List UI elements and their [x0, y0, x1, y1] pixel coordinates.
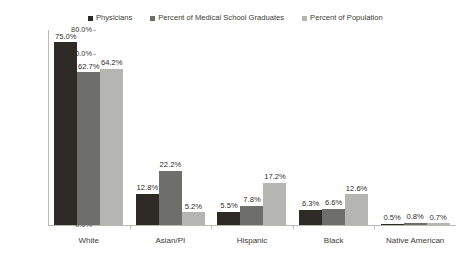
bar-column: 0.7% [427, 30, 450, 225]
bar-column: 5.2% [182, 30, 205, 225]
legend-swatch-icon [88, 16, 93, 21]
bar-group: 6.3%6.6%12.6%Black [293, 30, 375, 225]
bar-group-bars: 12.8%22.2%5.2% [130, 30, 212, 225]
x-axis-category-label: Asian/PI [130, 236, 212, 245]
x-axis-line [48, 225, 456, 226]
x-axis-group-separator [211, 225, 212, 229]
bar-value-label: 7.8% [243, 196, 260, 204]
chart-legend: PhysiciansPercent of Medical School Grad… [88, 11, 458, 25]
bar-value-label: 6.6% [325, 199, 342, 207]
y-axis-tick-mark [93, 225, 96, 226]
bar-group-bars: 5.5%7.8%17.2% [211, 30, 293, 225]
legend-label: Physicians [96, 14, 132, 22]
bar[interactable] [54, 42, 77, 225]
bar-group: 5.5%7.8%17.2%Hispanic [211, 30, 293, 225]
bar[interactable] [136, 194, 159, 225]
bar[interactable] [159, 171, 182, 225]
legend-entry-1[interactable]: Percent of Medical School Graduates [150, 14, 284, 22]
legend-entry-0[interactable]: Physicians [88, 14, 132, 22]
bar[interactable] [217, 212, 240, 225]
bar-chart: PhysiciansPercent of Medical School Grad… [0, 0, 462, 263]
bar-column: 62.7% [77, 30, 100, 225]
plot-area: 80.0%70.0%60.0%50.0%40.0%30.0%20.0%10.0%… [48, 30, 456, 225]
bar-column: 0.5% [381, 30, 404, 225]
bar-column: 7.8% [240, 30, 263, 225]
bar-value-label: 0.8% [407, 213, 424, 221]
bar-column: 5.5% [217, 30, 240, 225]
bar-column: 12.6% [345, 30, 368, 225]
x-axis-group-separator [374, 225, 375, 229]
bar-value-label: 17.2% [264, 173, 286, 181]
bar[interactable] [427, 223, 450, 225]
bar-value-label: 5.2% [185, 203, 202, 211]
bar[interactable] [345, 194, 368, 225]
bar-group-bars: 0.5%0.8%0.7% [374, 30, 456, 225]
bar-value-label: 12.6% [346, 185, 368, 193]
x-axis-category-label: Hispanic [211, 236, 293, 245]
bar-column: 75.0% [54, 30, 77, 225]
bar[interactable] [381, 224, 404, 225]
bar-value-label: 5.5% [220, 202, 237, 210]
bar-column: 12.8% [136, 30, 159, 225]
bar-group: 0.5%0.8%0.7%Native American [374, 30, 456, 225]
bar-column: 6.3% [299, 30, 322, 225]
bar-value-label: 0.7% [430, 214, 447, 222]
bar-group-bars: 75.0%62.7%64.2% [48, 30, 130, 225]
x-axis-category-label: Native American [374, 236, 456, 245]
bar-value-label: 64.2% [101, 59, 123, 67]
bar-group: 12.8%22.2%5.2%Asian/PI [130, 30, 212, 225]
legend-swatch-icon [150, 16, 155, 21]
x-axis-category-label: White [48, 236, 130, 245]
bar-value-label: 62.7% [78, 63, 100, 71]
legend-entry-2[interactable]: Percent of Population [302, 14, 383, 22]
x-axis-category-label: Black [293, 236, 375, 245]
bar[interactable] [404, 223, 427, 225]
bar-value-label: 22.2% [160, 161, 182, 169]
bar-value-label: 6.3% [302, 200, 319, 208]
bar-group: 75.0%62.7%64.2%White [48, 30, 130, 225]
bar-column: 17.2% [263, 30, 286, 225]
bar[interactable] [77, 72, 100, 225]
legend-label: Percent of Medical School Graduates [158, 14, 284, 22]
bar[interactable] [263, 183, 286, 225]
legend-label: Percent of Population [310, 14, 383, 22]
bar[interactable] [322, 209, 345, 225]
bar-column: 6.6% [322, 30, 345, 225]
x-axis-group-separator [293, 225, 294, 229]
bar-column: 64.2% [100, 30, 123, 225]
bar-column: 22.2% [159, 30, 182, 225]
legend-swatch-icon [302, 16, 307, 21]
bar[interactable] [182, 212, 205, 225]
bar-value-label: 75.0% [55, 33, 77, 41]
bar-group-bars: 6.3%6.6%12.6% [293, 30, 375, 225]
bar-column: 0.8% [404, 30, 427, 225]
bar[interactable] [299, 210, 322, 225]
x-axis-group-separator [130, 225, 131, 229]
bar[interactable] [100, 69, 123, 225]
bar[interactable] [240, 206, 263, 225]
bar-value-label: 0.5% [384, 214, 401, 222]
bar-value-label: 12.8% [137, 184, 159, 192]
